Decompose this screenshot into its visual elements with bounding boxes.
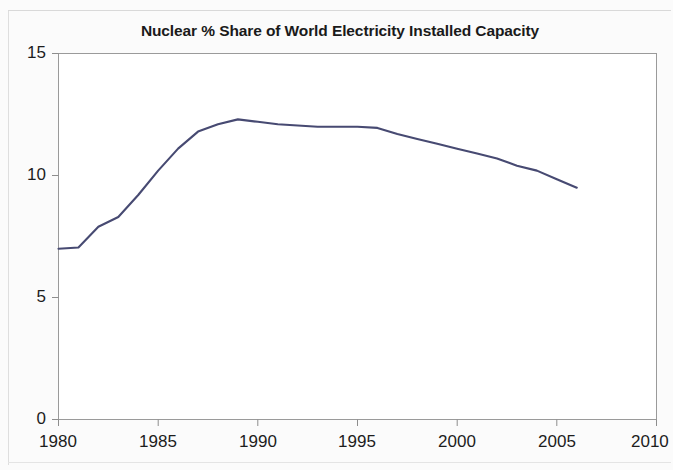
chart-figure: Nuclear % Share of World Electricity Ins… [0,0,673,470]
y-axis-label-15: 15 [6,43,46,63]
x-axis-label-2000: 2000 [422,432,492,452]
x-axis-label-1980: 1980 [23,432,93,452]
x-axis-label-2010: 2010 [631,432,673,452]
y-axis-label-10: 10 [6,165,46,185]
plot-box-border [59,54,657,420]
x-axis-ticks [59,420,657,427]
x-axis-label-1990: 1990 [223,432,293,452]
x-axis-label-2005: 2005 [522,432,592,452]
x-axis-label-1995: 1995 [322,432,392,452]
plot-area [0,0,673,470]
y-axis-label-0: 0 [6,409,46,429]
y-axis-label-5: 5 [6,287,46,307]
x-axis-label-1985: 1985 [123,432,193,452]
y-axis-ticks [52,54,59,420]
